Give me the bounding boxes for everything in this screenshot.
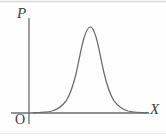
bell-curve-figure: P X O [0,0,166,136]
origin-label: O [15,113,25,127]
x-axis-label: X [150,102,159,117]
y-axis-label: P [17,6,26,21]
gaussian-curve [33,27,148,113]
